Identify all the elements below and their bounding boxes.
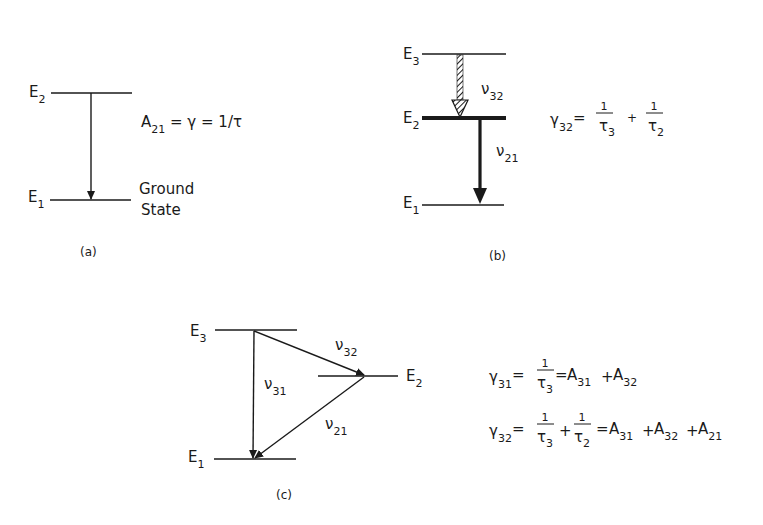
svg-text:τ2: τ2	[648, 117, 664, 139]
level-e2-label: E2	[406, 367, 422, 390]
svg-text:+: +	[559, 422, 572, 440]
level-e3-label: E3	[403, 45, 419, 68]
panel-a: E2 E1 A21 = γ = 1/τ Ground State (a)	[28, 83, 242, 259]
caption-c: (c)	[276, 488, 292, 502]
svg-text:+: +	[601, 368, 614, 386]
nu21-label: ν21	[496, 142, 518, 165]
caption-a: (a)	[80, 245, 97, 259]
svg-text:A31: A31	[567, 366, 591, 389]
equation-c-gamma31: γ31= 1 τ3 = A31 + A32	[489, 357, 637, 396]
svg-text:+: +	[686, 422, 699, 440]
nu32-label: ν32	[335, 336, 357, 359]
svg-text:τ3: τ3	[537, 428, 553, 450]
svg-text:1: 1	[542, 411, 549, 424]
svg-text:=: =	[555, 366, 568, 384]
svg-text:+: +	[642, 422, 655, 440]
svg-text:1: 1	[579, 411, 586, 424]
level-e2-label: E2	[29, 83, 45, 106]
level-e1-label: E1	[28, 188, 44, 211]
nu32-label: ν32	[481, 80, 503, 103]
svg-text:1: 1	[651, 100, 658, 113]
ground-label: Ground	[139, 180, 194, 198]
energy-level-diagrams: E2 E1 A21 = γ = 1/τ Ground State (a) E3 …	[0, 0, 763, 525]
svg-text:τ3: τ3	[599, 117, 615, 139]
svg-text:γ32=: γ32=	[550, 109, 585, 134]
svg-text:1: 1	[601, 100, 608, 113]
arrow-e3-to-e1	[253, 331, 254, 458]
level-e1-label: E1	[403, 194, 419, 217]
equation-c-gamma32: γ32= 1 τ3 + 1 τ2 = A31 + A32 + A21	[489, 411, 722, 450]
svg-text:1: 1	[542, 357, 549, 370]
hatched-transition-arrow	[452, 55, 468, 117]
level-e3-label: E3	[190, 322, 206, 345]
level-e2-label: E2	[403, 109, 419, 132]
level-e1-label: E1	[188, 448, 204, 471]
svg-text:A31: A31	[609, 420, 633, 443]
svg-text:γ32=: γ32=	[489, 420, 524, 445]
caption-b: (b)	[489, 249, 506, 263]
svg-text:=: =	[596, 420, 609, 438]
panel-b: E3 E2 E1 ν32 ν21 γ32= 1 τ3 + 1 τ2 (b)	[403, 45, 664, 263]
svg-text:A32: A32	[654, 420, 678, 443]
equation-b: γ32= 1 τ3 + 1 τ2	[550, 100, 664, 139]
panel-c: E3 E2 E1 ν32 ν31 ν21 γ31= 1 τ3 = A31 + A…	[188, 322, 722, 502]
svg-text:A21: A21	[698, 420, 722, 443]
nu21-label: ν21	[325, 415, 347, 438]
svg-text:γ31=: γ31=	[489, 366, 524, 391]
thick-transition-arrow	[473, 119, 487, 204]
svg-text:τ2: τ2	[574, 428, 590, 450]
equation-a: A21 = γ = 1/τ	[141, 113, 242, 136]
state-label: State	[141, 201, 181, 219]
svg-text:A32: A32	[613, 366, 637, 389]
svg-text:τ3: τ3	[537, 374, 553, 396]
nu31-label: ν31	[264, 375, 286, 398]
svg-text:+: +	[627, 111, 637, 125]
